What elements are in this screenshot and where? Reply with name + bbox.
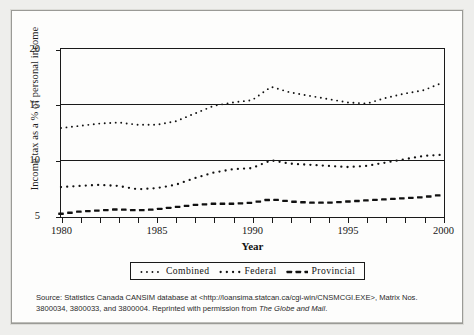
x-axis-tick-mark — [234, 218, 235, 223]
bottom-divider — [12, 322, 462, 323]
x-axis-tick-mark — [100, 218, 101, 223]
legend-label: Provincial — [312, 265, 356, 276]
source-line-1: Source: Statistics Canada CANSIM databas… — [36, 293, 418, 302]
x-axis-tick-mark — [138, 218, 139, 223]
legend-entry-provincial: Provincial — [286, 265, 356, 276]
figure-card: Income tax as a % of personal income 510… — [11, 10, 463, 324]
x-axis-tick-mark — [176, 218, 177, 223]
legend-swatch-federal-icon — [219, 267, 241, 275]
x-axis-tick-mark — [214, 218, 215, 223]
x-axis-tick-marks — [60, 218, 445, 224]
source-line-2-suffix: . — [325, 304, 327, 313]
x-axis-tick-mark — [329, 218, 330, 223]
legend-label: Federal — [245, 265, 277, 276]
legend-swatch-combined-icon — [140, 267, 162, 275]
x-axis-tick-mark — [272, 218, 273, 223]
x-axis-tick-mark — [367, 218, 368, 223]
y-axis-tick-label: 20 — [10, 43, 40, 54]
x-axis-tick-mark — [405, 218, 406, 223]
x-axis-tick-mark — [386, 218, 387, 223]
x-axis-tick-label: 1985 — [137, 225, 177, 236]
x-axis-title: Year — [60, 240, 445, 252]
x-axis-tick-mark — [62, 218, 63, 223]
x-axis-tick-mark — [195, 218, 196, 223]
series-combined — [60, 83, 440, 129]
gridline — [61, 104, 444, 105]
y-axis-tick-label: 15 — [10, 99, 40, 110]
x-axis-tick-mark — [310, 218, 311, 223]
y-axis-tick-label: 10 — [10, 154, 40, 165]
source-publication-name: The Globe and Mail — [259, 304, 325, 313]
x-axis-tick-mark — [444, 218, 445, 223]
x-axis-tick-mark — [348, 218, 349, 223]
x-axis-tick-label: 2000 — [424, 225, 464, 236]
x-axis-tick-mark — [291, 218, 292, 223]
legend-entry-combined: Combined — [140, 265, 210, 276]
x-axis-tick-mark — [425, 218, 426, 223]
page-background: Income tax as a % of personal income 510… — [0, 0, 474, 335]
x-axis-tick-label: 1995 — [328, 225, 368, 236]
x-axis-tick-label: 1980 — [42, 225, 82, 236]
x-axis-tick-mark — [253, 218, 254, 223]
data-series-layer — [61, 49, 443, 216]
legend-swatch-provincial-icon — [286, 267, 308, 275]
series-provincial — [58, 194, 440, 215]
legend-entry-federal: Federal — [219, 265, 277, 276]
source-line-2-prefix: 3800034, 3800033, and 3800004. Reprinted… — [36, 304, 259, 313]
source-note: Source: Statistics Canada CANSIM databas… — [36, 292, 446, 315]
x-axis-tick-mark — [119, 218, 120, 223]
chart-region: Income tax as a % of personal income 510… — [12, 11, 462, 243]
y-axis-tick-label: 5 — [10, 210, 40, 221]
x-axis-tick-mark — [81, 218, 82, 223]
x-axis-tick-mark — [157, 218, 158, 223]
legend-label: Combined — [166, 265, 210, 276]
x-axis-tick-label: 1990 — [233, 225, 273, 236]
plot-area — [60, 48, 445, 218]
gridline — [61, 160, 444, 161]
chart-legend: CombinedFederalProvincial — [130, 262, 365, 280]
